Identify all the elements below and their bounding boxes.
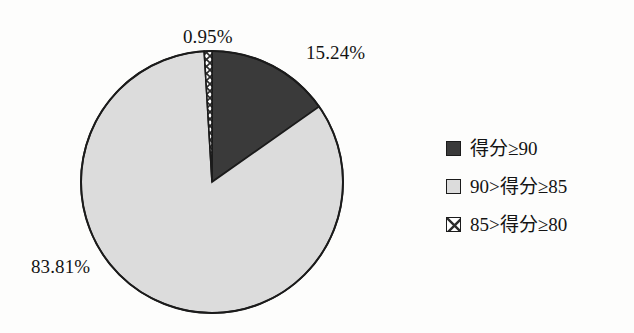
legend-swatch-solid-dark-icon (446, 141, 461, 156)
pie-label-score-ge-90: 15.24% (306, 43, 365, 62)
legend-label-score-85-to-90: 90>得分≥85 (470, 177, 567, 196)
pie-chart-figure: 0.95% 15.24% 83.81% 得分≥90 90>得分≥85 85>得分… (0, 0, 634, 333)
crosshatch-pattern-icon (447, 218, 461, 232)
legend-label-score-80-to-85: 85>得分≥80 (470, 215, 567, 234)
legend-item-score-ge-90: 得分≥90 (446, 129, 626, 167)
pie-label-score-80-to-85: 0.95% (183, 27, 233, 46)
legend-item-score-85-to-90: 90>得分≥85 (446, 167, 626, 205)
pie-label-score-85-to-90: 83.81% (31, 257, 90, 276)
legend-item-score-80-to-85: 85>得分≥80 (446, 205, 626, 243)
pie-slices (81, 51, 343, 313)
legend-label-score-ge-90: 得分≥90 (470, 139, 537, 158)
legend-swatch-crosshatch-icon (446, 217, 461, 232)
legend-swatch-solid-light-icon (446, 179, 461, 194)
chart-legend: 得分≥90 90>得分≥85 85>得分≥80 (446, 129, 626, 243)
